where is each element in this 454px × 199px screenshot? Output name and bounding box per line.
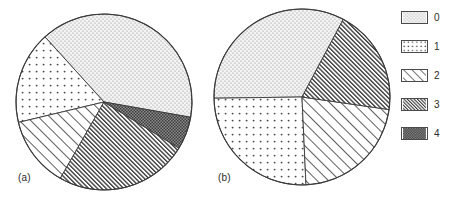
legend-swatch-fine-dots [401,11,428,24]
legend-item[interactable]: 2 [398,66,454,95]
panel-label-b: (b) [218,172,231,183]
legend-label: 2 [434,67,440,84]
pie-chart-a [16,14,192,190]
pie-slice-2[interactable] [302,97,389,185]
chart-legend: 01234 [398,8,454,153]
legend-item[interactable]: 1 [398,37,454,66]
legend-swatch-sparse-dots [401,40,428,53]
legend-label: 1 [434,38,440,55]
legend-item[interactable]: 4 [398,124,454,153]
legend-swatch-dense-hatch [401,98,428,111]
panel-label-a: (a) [18,172,31,183]
pie-chart-figure [0,0,454,199]
legend-label: 3 [434,96,440,113]
legend-item[interactable]: 0 [398,8,454,37]
legend-item[interactable]: 3 [398,95,454,124]
legend-swatch-light-hatch [401,69,428,82]
legend-label: 4 [434,125,440,142]
legend-swatch-dark-check [401,127,428,140]
legend-label: 0 [434,9,440,26]
pie-chart-b [214,9,390,185]
